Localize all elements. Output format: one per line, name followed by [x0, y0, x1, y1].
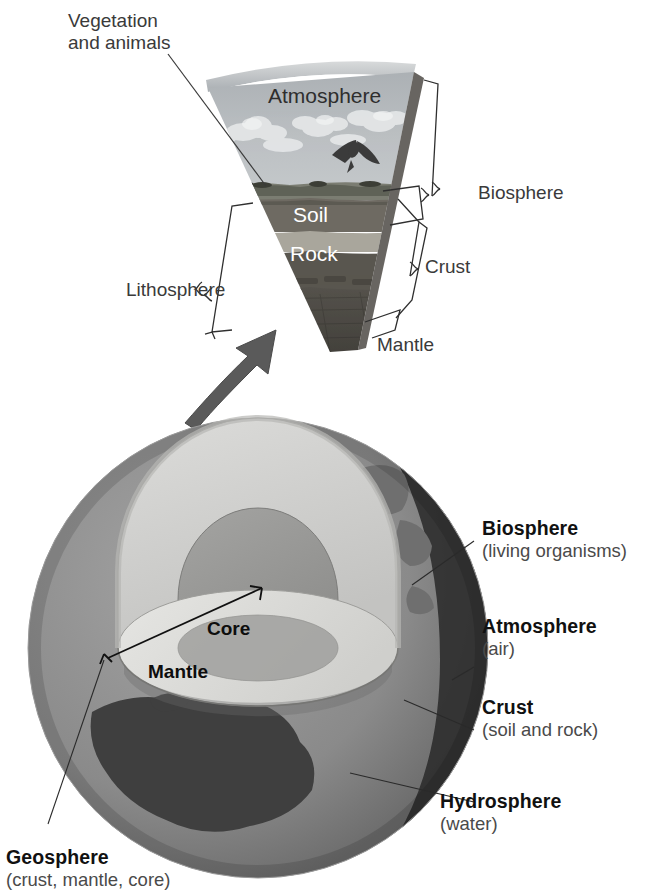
earth-graphic [0, 0, 651, 896]
label-atmosphere: Atmosphere (air) [482, 615, 597, 660]
label-geosphere-title: Geosphere [6, 846, 171, 869]
label-crust-subtitle: (soil and rock) [482, 719, 598, 741]
earth-label-mantle: Mantle [148, 661, 208, 683]
label-biosphere: Biosphere (living organisms) [482, 517, 627, 562]
earth-label-core: Core [207, 618, 250, 640]
label-atmosphere-subtitle: (air) [482, 638, 597, 660]
label-geosphere: Geosphere (crust, mantle, core) [6, 846, 171, 891]
label-atmosphere-title: Atmosphere [482, 615, 597, 638]
label-crust: Crust (soil and rock) [482, 696, 598, 741]
label-hydrosphere-subtitle: (water) [440, 813, 561, 835]
label-hydrosphere-title: Hydrosphere [440, 790, 561, 813]
label-biosphere-title: Biosphere [482, 517, 627, 540]
label-crust-title: Crust [482, 696, 598, 719]
label-biosphere-subtitle: (living organisms) [482, 540, 627, 562]
earth-systems-diagram: Atmosphere Soil Rock Vegetation and anim… [0, 0, 651, 896]
label-geosphere-subtitle: (crust, mantle, core) [6, 869, 171, 891]
label-hydrosphere: Hydrosphere (water) [440, 790, 561, 835]
